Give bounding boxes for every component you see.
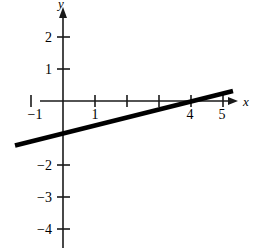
x-tick-label-4: 4	[187, 108, 194, 122]
x-tick-label-5: 5	[219, 108, 226, 122]
y-tick-label-2: 2	[38, 31, 52, 45]
x-tick-label-neg1: −1	[28, 108, 43, 122]
x-axis-arrowhead	[228, 97, 238, 105]
y-tick-label-neg2: −2	[30, 159, 52, 173]
y-tick-label-neg3: −3	[30, 191, 52, 205]
y-tick-label-1: 1	[38, 63, 52, 77]
x-tick-label-1: 1	[92, 108, 99, 122]
line-graph-figure: −1 1 4 5 2 1 −2 −3 −4 x y	[0, 0, 258, 252]
y-tick-label-neg4: −4	[30, 223, 52, 237]
plotted-line-series	[15, 91, 233, 146]
y-axis-name-label: y	[58, 0, 64, 10]
x-axis-name-label: x	[243, 95, 249, 108]
